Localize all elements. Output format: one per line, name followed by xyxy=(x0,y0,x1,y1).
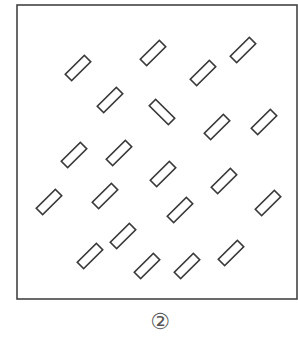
tilted-rectangle xyxy=(140,40,165,65)
tilted-rectangle xyxy=(251,109,276,134)
tilted-rectangle xyxy=(110,223,135,248)
tilted-rectangle xyxy=(92,183,117,208)
tilted-rectangle xyxy=(61,142,86,167)
tilted-rectangle xyxy=(211,168,236,193)
tilted-rectangle xyxy=(167,197,192,222)
tilted-rectangle xyxy=(230,37,255,62)
figure-caption: ② xyxy=(140,309,180,335)
tilted-rectangle xyxy=(134,253,159,278)
tilted-rectangle xyxy=(36,189,61,214)
tilted-rectangle xyxy=(218,240,243,265)
tilted-rectangle xyxy=(255,190,280,215)
tilted-rectangle xyxy=(150,161,175,186)
tilted-rectangle xyxy=(97,87,122,112)
tilted-rectangle xyxy=(190,60,215,85)
pattern-figure xyxy=(0,0,298,342)
tilted-rectangle xyxy=(77,243,102,268)
tilted-rectangle xyxy=(174,253,199,278)
rectangle-group xyxy=(36,37,280,278)
tilted-rectangle xyxy=(204,114,229,139)
tilted-rectangle xyxy=(65,55,90,80)
tilted-rectangle xyxy=(106,140,131,165)
tilted-rectangle xyxy=(149,99,174,124)
